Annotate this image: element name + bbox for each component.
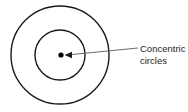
diagram-canvas: Concentric circles: [0, 0, 188, 112]
annotation-label-line1: Concentric: [140, 43, 186, 54]
annotation-label-line2: circles: [140, 55, 167, 66]
center-point: [58, 52, 63, 57]
concentric-circles-illustration: Concentric circles: [0, 0, 188, 112]
